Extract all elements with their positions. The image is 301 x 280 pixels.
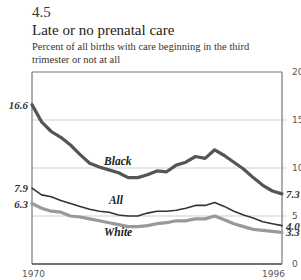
- series-line-white: [32, 204, 282, 233]
- series-label-all: All: [108, 194, 124, 206]
- y-tick-label: 0: [292, 259, 298, 269]
- end-value-black: 7.3: [286, 188, 300, 200]
- series-line-all: [32, 188, 282, 225]
- end-value-white: 3.3: [285, 226, 300, 238]
- line-chart: 0510152019701996 16.67.3Black7.94.0All6.…: [0, 0, 301, 280]
- gridlines: [32, 120, 286, 216]
- series-line-black: [32, 105, 282, 194]
- x-tick-label: 1996: [262, 269, 285, 279]
- y-tick-label: 15: [292, 115, 301, 125]
- x-tick-label: 1970: [22, 269, 45, 279]
- axes: 0510152019701996: [22, 67, 301, 279]
- series-label-black: Black: [103, 155, 132, 167]
- y-tick-label: 20: [292, 67, 301, 77]
- series-label-white: White: [104, 226, 132, 238]
- start-value-white: 6.3: [14, 198, 28, 210]
- y-tick-label: 10: [292, 163, 301, 173]
- start-value-black: 16.6: [9, 99, 29, 111]
- start-value-all: 7.9: [14, 182, 28, 194]
